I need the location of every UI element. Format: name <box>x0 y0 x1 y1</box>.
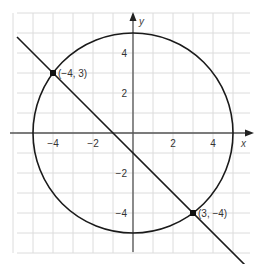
intersection-points: (−4, 3)(3, −4) <box>50 68 227 219</box>
x-axis <box>10 130 254 137</box>
point-label: (3, −4) <box>198 208 227 219</box>
coordinate-plane: x y −4−224 42−2−4 (−4, 3)(3, −4) <box>0 0 266 264</box>
y-tick-label: 2 <box>121 88 127 99</box>
x-tick-label: −4 <box>47 138 59 149</box>
y-axis-label: y <box>138 16 145 27</box>
point-label: (−4, 3) <box>58 68 87 79</box>
point-marker <box>190 210 196 216</box>
y-tick-label: −4 <box>116 208 128 219</box>
x-tick-label: 4 <box>210 138 216 149</box>
y-axis <box>130 12 137 252</box>
x-axis-label: x <box>240 138 247 149</box>
y-tick-label: 4 <box>121 48 127 59</box>
x-tick-label: −2 <box>87 138 99 149</box>
x-tick-label: 2 <box>170 138 176 149</box>
x-axis-arrow-icon <box>245 130 254 137</box>
point-marker <box>50 70 56 76</box>
y-tick-label: −2 <box>116 168 128 179</box>
